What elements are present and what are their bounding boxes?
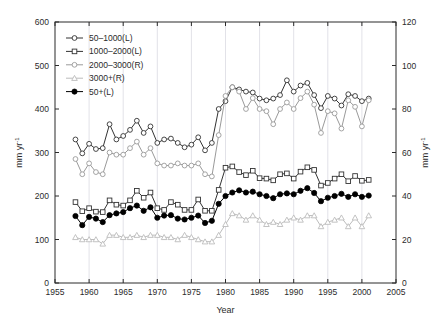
data-point-open-triangle xyxy=(73,235,79,240)
data-point-filled-circle xyxy=(352,192,357,197)
unit-exponent: -1 xyxy=(14,137,20,143)
data-point-filled-circle xyxy=(168,213,173,218)
data-point-open-circle xyxy=(271,96,276,101)
data-point-filled-circle xyxy=(100,220,105,225)
data-point-open-square xyxy=(155,206,160,211)
data-point-filled-circle xyxy=(305,186,310,191)
unit-exponent: -1 xyxy=(420,137,426,143)
data-point-open-circle xyxy=(244,107,249,112)
data-point-filled-circle xyxy=(318,199,323,204)
data-point-open-circle xyxy=(284,100,289,105)
y-tick-label-right: 120 xyxy=(402,17,416,27)
data-point-open-square xyxy=(135,188,140,193)
x-tick-label: 1960 xyxy=(80,287,99,297)
data-point-open-square xyxy=(175,202,180,207)
data-point-open-circle xyxy=(121,134,126,139)
data-point-open-circle xyxy=(155,141,160,146)
data-point-open-square xyxy=(305,165,310,170)
data-point-open-circle xyxy=(94,170,99,175)
data-point-open-square xyxy=(244,173,249,178)
series-2 xyxy=(73,164,371,214)
data-point-filled-circle xyxy=(325,195,330,200)
data-point-filled-circle xyxy=(284,191,289,196)
legend-item-3[interactable]: 2000–3000(R) xyxy=(66,60,144,70)
data-point-open-square xyxy=(339,172,344,177)
data-series-layer xyxy=(73,78,372,246)
data-point-filled-circle xyxy=(291,192,296,197)
data-point-open-circle xyxy=(182,145,187,150)
data-point-open-square xyxy=(182,208,187,213)
y-tick-label-left: 200 xyxy=(35,191,49,201)
data-point-open-circle xyxy=(325,109,330,114)
y-axis-title-right: mm yr-1 xyxy=(420,137,430,168)
data-point-filled-circle xyxy=(257,192,262,197)
data-point-filled-circle xyxy=(366,193,371,198)
data-point-open-circle xyxy=(291,107,296,112)
data-point-open-circle xyxy=(360,124,365,129)
data-point-open-circle xyxy=(284,78,289,83)
data-point-open-triangle xyxy=(243,217,249,222)
data-point-open-square xyxy=(312,168,317,173)
data-point-open-triangle xyxy=(250,213,256,218)
data-point-open-triangle xyxy=(366,213,372,218)
x-tick-label: 2005 xyxy=(387,287,406,297)
data-point-open-square xyxy=(72,49,77,54)
data-point-filled-circle xyxy=(223,193,228,198)
data-point-open-circle xyxy=(189,142,194,147)
data-point-open-square xyxy=(210,208,215,213)
data-point-open-circle xyxy=(332,111,337,116)
data-point-open-circle xyxy=(114,137,119,142)
data-point-filled-circle xyxy=(182,217,187,222)
data-point-open-square xyxy=(332,176,337,181)
data-point-filled-circle xyxy=(209,218,214,223)
data-point-open-square xyxy=(94,209,99,214)
legend-item-5[interactable]: 50+(L) xyxy=(66,87,114,97)
x-tick-label: 1975 xyxy=(182,287,201,297)
legend-item-1[interactable]: 50–1000(L) xyxy=(66,33,133,43)
data-point-open-circle xyxy=(305,81,310,86)
data-point-open-circle xyxy=(148,124,153,129)
data-point-open-square xyxy=(285,171,290,176)
data-point-filled-circle xyxy=(134,203,139,208)
data-point-filled-circle xyxy=(264,193,269,198)
data-point-filled-circle xyxy=(72,89,77,94)
data-point-open-square xyxy=(257,176,262,181)
y-tick-label-left: 0 xyxy=(44,278,49,288)
data-point-open-circle xyxy=(346,92,351,97)
data-point-open-circle xyxy=(107,122,112,127)
legend-item-4[interactable]: 3000+(R) xyxy=(66,73,125,83)
data-point-open-triangle xyxy=(182,232,188,237)
data-point-filled-circle xyxy=(298,188,303,193)
data-point-open-circle xyxy=(100,172,105,177)
data-point-open-circle xyxy=(80,172,85,177)
legend-item-2[interactable]: 1000–2000(L) xyxy=(66,46,142,56)
data-point-open-circle xyxy=(162,137,167,142)
data-point-open-square xyxy=(100,210,105,215)
x-tick-label: 1995 xyxy=(318,287,337,297)
data-point-open-triangle xyxy=(352,215,358,220)
data-point-open-square xyxy=(162,208,167,213)
y-tick-label-right: 60 xyxy=(402,148,412,158)
data-point-filled-circle xyxy=(127,206,132,211)
data-point-open-circle xyxy=(107,150,112,155)
data-point-open-circle xyxy=(175,141,180,146)
data-point-open-circle xyxy=(298,83,303,88)
data-point-open-circle xyxy=(134,118,139,123)
data-point-open-triangle xyxy=(257,217,263,222)
data-point-open-square xyxy=(128,198,133,203)
data-point-open-triangle xyxy=(230,211,236,216)
data-point-open-square xyxy=(80,209,85,214)
data-point-open-square xyxy=(73,200,78,205)
data-point-filled-circle xyxy=(277,192,282,197)
data-point-open-circle xyxy=(72,36,77,41)
data-point-open-circle xyxy=(298,96,303,101)
data-point-open-square xyxy=(326,181,331,186)
line-chart: 1955196019651970197519801985199019952000… xyxy=(0,0,447,328)
data-point-open-triangle xyxy=(270,219,276,224)
series-line xyxy=(75,166,368,212)
data-point-filled-circle xyxy=(162,213,167,218)
data-point-open-circle xyxy=(80,151,85,156)
y-axis-title-left: mm yr-1 xyxy=(14,137,24,168)
x-tick-label: 1980 xyxy=(216,287,235,297)
data-point-open-square xyxy=(148,190,153,195)
